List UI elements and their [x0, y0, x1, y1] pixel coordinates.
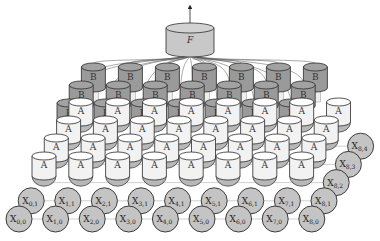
a-node-6-2-label: A: [285, 124, 293, 134]
a-node-4-0: A: [179, 152, 203, 186]
a-node-4-3-label: A: [224, 106, 232, 116]
input-node-x-2-0: X2,0: [79, 206, 105, 232]
a-node-2-3-label: A: [150, 106, 158, 116]
a-node-6-0-label: A: [261, 160, 269, 170]
b-node-0-2-label: B: [90, 72, 97, 82]
a-node-4-1-label: A: [199, 142, 207, 152]
input-node-x-3-0: X3,0: [116, 206, 142, 232]
network-nodes: BBBBBBBBBBBBBBBBBBBBBAAAAAAAAAAAAAAAAAAA…: [6, 63, 374, 232]
input-node-x-1-0: X1,0: [43, 206, 69, 232]
a-node-2-0-label: A: [113, 160, 121, 170]
a-node-0-0: A: [32, 152, 56, 186]
a-node-2-0: A: [106, 152, 130, 186]
a-node-5-0: A: [216, 152, 240, 186]
a-node-7-3-label: A: [334, 106, 342, 116]
input-node-x-0-0: X0,0: [6, 206, 32, 232]
a-node-4-2-label: A: [212, 124, 220, 134]
a-node-7-0: A: [290, 152, 314, 186]
a-node-3-1-label: A: [162, 142, 170, 152]
input-node-x-5-0: X5,0: [189, 206, 215, 232]
a-node-6-0: A: [253, 152, 277, 186]
a-node-4-0-label: A: [187, 160, 195, 170]
input-node-x-8-0: X8,0: [299, 206, 325, 232]
a-node-7-0-label: A: [297, 160, 305, 170]
input-node-x-7-0: X7,0: [262, 206, 288, 232]
a-node-6-1-label: A: [273, 142, 281, 152]
a-node-0-2-label: A: [64, 124, 72, 134]
a-node-7-2-label: A: [322, 124, 330, 134]
input-node-x-4-0: X4,0: [152, 206, 178, 232]
a-node-2-1-label: A: [126, 142, 134, 152]
output-section: F: [166, 7, 214, 57]
a-node-1-0-label: A: [77, 160, 85, 170]
a-node-1-3-label: A: [113, 106, 121, 116]
a-node-5-2-label: A: [248, 124, 256, 134]
a-node-7-1-label: A: [310, 142, 318, 152]
a-node-3-0-label: A: [150, 160, 158, 170]
output-node-f: F: [166, 23, 214, 57]
a-node-0-3-label: A: [77, 106, 85, 116]
a-node-5-3-label: A: [261, 106, 269, 116]
b-node-1-2-label: B: [127, 72, 134, 82]
a-node-5-0-label: A: [224, 160, 232, 170]
a-node-1-0: A: [69, 152, 93, 186]
a-node-5-1-label: A: [236, 142, 244, 152]
output-node-f-label: F: [186, 35, 194, 45]
b-node-5-2-label: B: [275, 72, 282, 82]
a-node-1-2-label: A: [101, 124, 109, 134]
a-node-6-3-label: A: [297, 106, 305, 116]
network-diagram: BBBBBBBBBBBBBBBBBBBBBAAAAAAAAAAAAAAAAAAA…: [0, 0, 380, 241]
a-node-2-2-label: A: [138, 124, 146, 134]
a-node-3-2-label: A: [175, 124, 183, 134]
b-node-2-2-label: B: [164, 72, 171, 82]
a-node-3-0: A: [142, 152, 166, 186]
b-node-4-2-label: B: [238, 72, 245, 82]
b-node-3-2-label: B: [201, 72, 208, 82]
diagram-canvas: BBBBBBBBBBBBBBBBBBBBBAAAAAAAAAAAAAAAAAAA…: [0, 0, 380, 241]
a-node-1-1-label: A: [89, 142, 97, 152]
a-node-0-0-label: A: [40, 160, 48, 170]
b-node-6-2-label: B: [312, 72, 319, 82]
input-node-x-6-0: X6,0: [226, 206, 252, 232]
a-node-3-3-label: A: [187, 106, 195, 116]
a-node-0-1-label: A: [52, 142, 60, 152]
edge-b-to-f: [190, 55, 192, 81]
